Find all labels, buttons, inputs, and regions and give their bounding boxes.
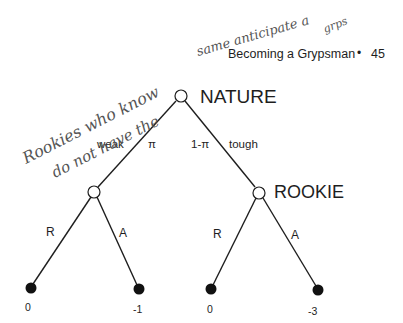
header-bullet: • [357,46,361,60]
terminal-node-1 [26,283,37,294]
action-left-r: R [46,225,55,239]
payoff-3: 0 [207,303,213,315]
action-left-a: A [119,226,127,240]
terminal-node-3 [206,284,217,295]
payoff-2: -1 [133,303,142,315]
edge-right-a [263,198,316,286]
branch-tough-prob: 1-π [191,138,209,150]
edge-right-r [213,198,256,285]
running-header-title: Becoming a Grypsman [228,47,355,61]
action-right-a: A [291,228,299,242]
edge-left-a [97,197,137,285]
edge-left-r [33,197,91,284]
nature-label: NATURE [200,86,277,107]
payoff-1: 0 [25,301,31,313]
terminal-node-4 [313,285,324,296]
rookie-label: ROOKIE [274,182,344,202]
page-number: 45 [371,47,385,61]
rookie-tough-node [253,187,265,199]
action-right-r: R [213,227,222,241]
rookie-weak-node [88,186,100,198]
terminal-node-2 [134,284,145,295]
nature-node [175,90,187,102]
branch-weak-prob: π [148,138,156,150]
branch-tough-label: tough [229,138,258,150]
handwritten-note-line4: grps [321,14,349,36]
game-tree-diagram: Becoming a Grypsman • 45 NATURE ROOKIE w… [0,0,403,323]
payoff-4: -3 [308,305,317,317]
